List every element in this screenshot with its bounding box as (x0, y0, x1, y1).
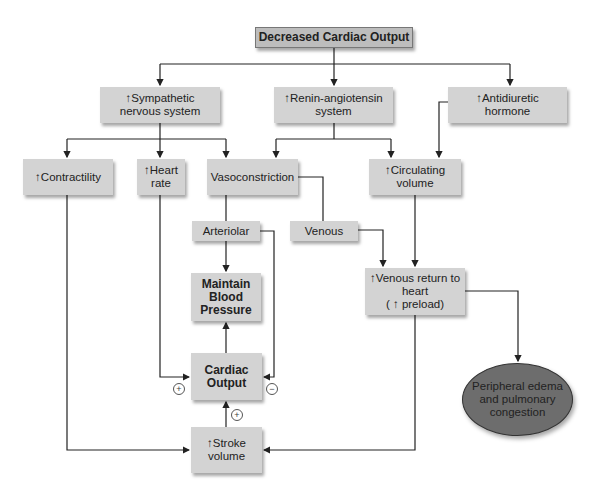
flowchart: Decreased Cardiac Output ↑Sympathetic ne… (0, 0, 597, 495)
plus-sign-heart-rate: + (173, 383, 185, 395)
node-sympathetic-nervous-system: ↑Sympathetic nervous system (100, 87, 220, 123)
node-decreased-cardiac-output: Decreased Cardiac Output (255, 27, 413, 48)
node-arteriolar: Arteriolar (192, 221, 260, 241)
node-peripheral-edema: Peripheral edema and pulmonary congestio… (462, 363, 573, 436)
node-renin-angiotensin-system: ↑Renin-angiotensin system (274, 87, 393, 123)
node-contractility: ↑Contractility (23, 159, 113, 195)
node-vasoconstriction: Vasoconstriction (207, 159, 298, 195)
node-circulating-volume: ↑Circulating volume (369, 159, 461, 195)
node-cardiac-output: Cardiac Output (191, 353, 262, 400)
node-maintain-blood-pressure: Maintain Blood Pressure (191, 273, 261, 321)
node-venous-return: ↑Venous return to heart ( ↑ preload) (365, 268, 465, 315)
minus-sign-arteriolar: − (266, 383, 278, 395)
node-venous: Venous (290, 221, 358, 241)
node-stroke-volume: ↑Stroke volume (191, 427, 262, 473)
node-heart-rate: ↑Heart rate (137, 159, 185, 195)
plus-sign-stroke-volume: + (231, 409, 243, 421)
node-antidiuretic-hormone: ↑Antidiuretic hormone (448, 87, 567, 123)
